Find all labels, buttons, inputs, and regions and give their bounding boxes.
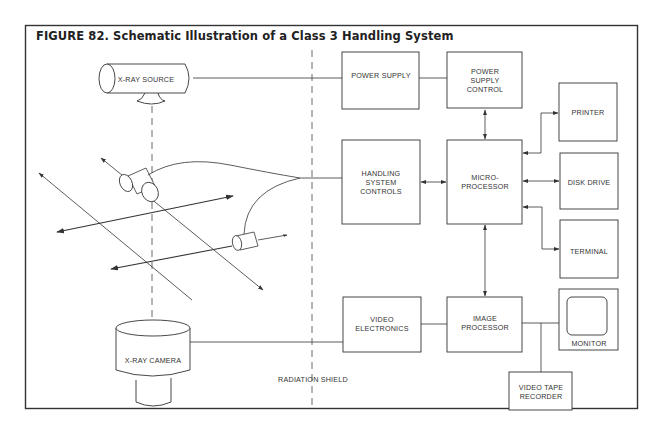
terminal-label: TERMINAL [570,247,608,256]
figure-title: FIGURE 82. Schematic Illustration of a C… [36,29,453,43]
disk-drive-label: DISK DRIVE [568,178,611,187]
xray-source-icon [99,64,189,104]
monitor-label: MONITOR [571,339,606,348]
monitor-screen-icon [567,297,607,335]
manipulator-axes [39,158,342,300]
power-supply-box [342,52,419,109]
video-tape-recorder-label: VIDEO TAPERECORDER [519,383,563,401]
printer-label: PRINTER [572,108,605,117]
microprocessor-label: MICRO-PROCESSOR [461,173,509,191]
video-electronics-label: VIDEOELECTRONICS [355,315,408,333]
blocks [342,52,618,410]
xray-source-label: X-RAY SOURCE [118,75,174,84]
xray-camera-label: X-RAY CAMERA [125,356,181,365]
radiation-shield-label: RADIATION SHIELD [278,375,348,384]
handling-system-controls-label: HANDLINGSYSTEMCONTROLS [360,169,402,196]
image-processor-label: IMAGEPROCESSOR [461,314,509,332]
power-supply-label: POWER SUPPLY [351,71,410,80]
power-supply-control-label: POWERSUPPLYCONTROL [467,67,504,94]
